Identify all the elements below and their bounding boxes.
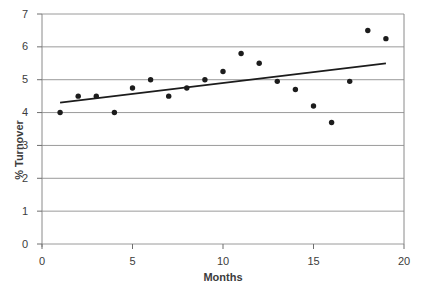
x-tick-label: 10 (217, 256, 229, 267)
data-point (130, 85, 135, 90)
data-point (347, 79, 352, 84)
x-tick-label: 0 (39, 256, 45, 267)
data-point (76, 93, 81, 98)
data-point (311, 103, 316, 108)
y-tick-label: 3 (0, 140, 35, 151)
y-tick-label: 0 (0, 239, 35, 250)
x-axis-title: Months (203, 271, 242, 283)
data-point (112, 110, 117, 115)
y-tick-label: 6 (0, 41, 35, 52)
data-point (383, 36, 388, 41)
chart-canvas (0, 0, 421, 303)
data-point (94, 93, 99, 98)
y-tick-label: 5 (0, 74, 35, 85)
scatter-chart-figure: % Turnover Months 0123456705101520 (0, 0, 421, 303)
y-tick-label: 1 (0, 206, 35, 217)
y-tick-label: 7 (0, 9, 35, 20)
data-point (57, 110, 62, 115)
data-point (275, 79, 280, 84)
data-point (329, 120, 334, 125)
data-point (238, 51, 243, 56)
data-point (220, 69, 225, 74)
data-point (257, 61, 262, 66)
x-tick-label: 5 (129, 256, 135, 267)
data-point (184, 85, 189, 90)
y-tick-label: 2 (0, 173, 35, 184)
data-point (293, 87, 298, 92)
data-point (365, 28, 370, 33)
x-tick-label: 15 (307, 256, 319, 267)
x-tick-label: 20 (398, 256, 410, 267)
y-tick-label: 4 (0, 107, 35, 118)
data-point (148, 77, 153, 82)
data-point (202, 77, 207, 82)
data-point (166, 93, 171, 98)
